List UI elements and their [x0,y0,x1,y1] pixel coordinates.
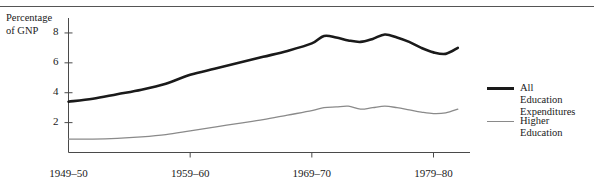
x-axis-ticks [190,153,433,158]
x-tick-label: 1969–70 [277,167,347,179]
legend-swatch-icon-higher-education [487,121,514,122]
y-tick-label: 2 [39,115,59,127]
legend-label-all-education: All Education Expenditures [520,82,575,118]
plot-area [0,0,594,185]
data-series [69,34,458,139]
x-tick-label: 1979–80 [399,167,469,179]
axes-lines [65,18,471,158]
x-tick-label: 1949–50 [34,167,104,179]
legend-swatch-icon-all-education [487,87,514,90]
y-tick-label: 4 [39,85,59,97]
x-tick-label: 1959–60 [155,167,225,179]
series-line-higher-education [69,106,458,139]
legend-label-higher-education: Higher Education [520,115,563,139]
y-tick-label: 6 [39,55,59,67]
series-line-all-education-expenditures [69,34,458,101]
chart-figure: Percentage of GNP 2468 1949–501959–60196… [0,0,594,185]
y-tick-label: 8 [39,25,59,37]
